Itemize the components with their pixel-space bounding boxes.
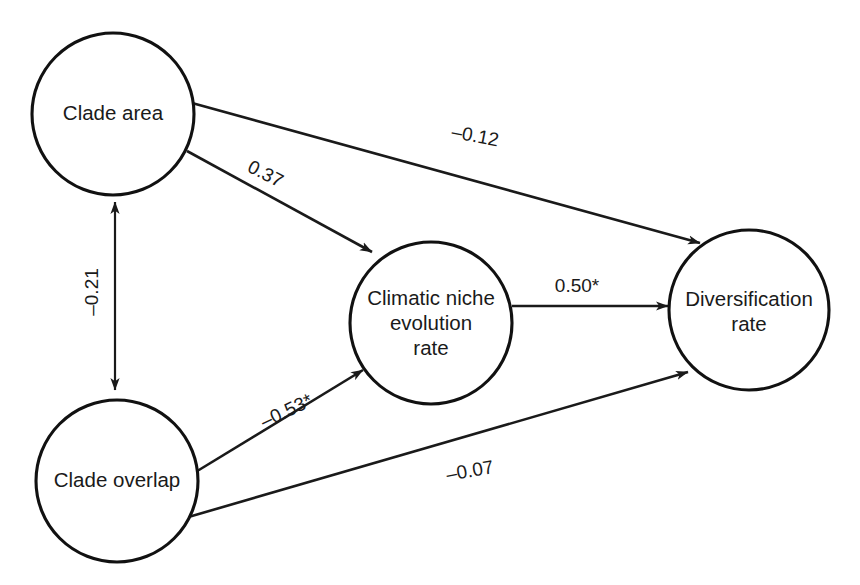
edge-clade-area-to-climatic-niche: 0.37 [187, 151, 372, 252]
node-label-clade-area: Clade area [63, 101, 164, 124]
edge-clade-area-clade-overlap-correlation: –0.21 [81, 202, 115, 390]
node-climatic-niche-evolution-rate[interactable]: Climatic niche evolution rate [350, 242, 512, 404]
edge-climatic-niche-to-diversification: 0.50* [512, 275, 668, 306]
node-label-climatic-niche-line-1: Climatic niche [367, 286, 495, 309]
edge-label-correlation-clade-area-clade-overlap: –0.21 [81, 268, 102, 316]
path-diagram-figure: –0.12 0.37 –0.21 –0.53* [0, 0, 860, 585]
node-label-diversification-line-2: rate [731, 312, 766, 335]
node-label-climatic-niche-line-3: rate [413, 336, 448, 359]
edge-label-clade-area-diversification: –0.12 [450, 121, 501, 151]
edge-label-clade-overlap-climatic-niche: –0.53* [257, 389, 316, 432]
node-label-climatic-niche-line-2: evolution [390, 311, 472, 334]
edge-clade-overlap-to-climatic-niche: –0.53* [194, 370, 363, 473]
node-clade-overlap[interactable]: Clade overlap [36, 400, 198, 562]
node-label-clade-overlap: Clade overlap [54, 468, 181, 491]
edge-line-clade-area-climatic-niche [187, 151, 372, 252]
node-diversification-rate[interactable]: Diversification rate [669, 230, 829, 390]
edge-label-clade-overlap-diversification: –0.07 [445, 456, 495, 485]
path-diagram-canvas: –0.12 0.37 –0.21 –0.53* [0, 0, 860, 585]
edge-label-climatic-niche-diversification: 0.50* [555, 275, 600, 296]
node-label-diversification-line-1: Diversification [685, 287, 813, 310]
node-clade-area[interactable]: Clade area [32, 33, 194, 195]
